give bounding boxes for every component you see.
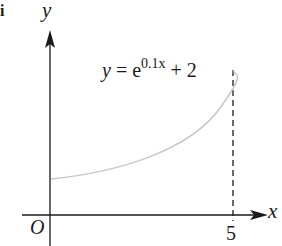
curve-y-e-0.1x-plus-2: [51, 70, 238, 179]
graph-canvas: [0, 0, 282, 246]
